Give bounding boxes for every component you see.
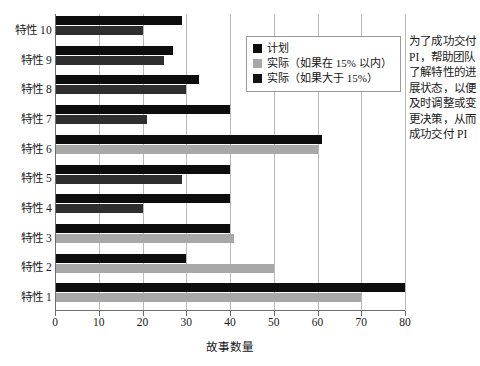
bar-actual xyxy=(55,26,143,35)
gridline xyxy=(405,14,406,311)
y-axis-line xyxy=(55,14,56,311)
bar-group xyxy=(55,103,405,133)
chart-legend: 计划实际（如果在 15% 以内）实际（如果大于 15%） xyxy=(246,36,401,92)
x-axis-tick-label: 50 xyxy=(254,316,294,328)
x-axis-tick-label: 10 xyxy=(79,316,119,328)
y-axis-category-label: 特性 5 xyxy=(21,169,52,185)
bar-planned xyxy=(55,194,230,203)
bar-planned xyxy=(55,75,199,84)
x-axis-tick-label: 40 xyxy=(210,316,250,328)
bar-actual xyxy=(55,234,234,243)
y-axis-category-label: 特性 3 xyxy=(21,229,52,245)
x-axis-tick-label: 0 xyxy=(35,316,75,328)
bar-chart-figure: 特性 1特性 2特性 3特性 4特性 5特性 6特性 7特性 8特性 9特性 1… xyxy=(0,0,480,366)
legend-label: 实际（如果在 15% 以内） xyxy=(267,56,392,71)
legend-swatch-icon xyxy=(253,44,262,53)
bar-group xyxy=(55,192,405,222)
bar-group xyxy=(55,222,405,252)
bar-group xyxy=(55,281,405,311)
legend-swatch-icon xyxy=(253,59,262,68)
y-axis-category-label: 特性 2 xyxy=(21,258,52,274)
bar-actual xyxy=(55,145,318,154)
side-note-text: 为了成功交付 PI，帮助团队了解特性的进展状态，以便及时调整或变更决策，从而成功… xyxy=(409,34,477,143)
x-axis-title: 故事数量 xyxy=(0,338,460,354)
legend-swatch-icon xyxy=(253,74,262,83)
x-axis-tick-label: 80 xyxy=(385,316,425,328)
bar-planned xyxy=(55,224,230,233)
y-axis-category-label: 特性 6 xyxy=(21,140,52,156)
bar-planned xyxy=(55,165,230,174)
bar-planned xyxy=(55,135,322,144)
legend-item: 实际（如果在 15% 以内） xyxy=(253,56,392,71)
bar-group xyxy=(55,252,405,282)
bar-actual xyxy=(55,264,274,273)
bar-planned xyxy=(55,16,182,25)
legend-label: 实际（如果大于 15%） xyxy=(267,71,378,86)
bar-group xyxy=(55,133,405,163)
bar-actual xyxy=(55,204,143,213)
bar-actual xyxy=(55,175,182,184)
y-axis-category-label: 特性 8 xyxy=(21,80,52,96)
y-axis-category-label: 特性 1 xyxy=(21,288,52,304)
bar-planned xyxy=(55,283,405,292)
bar-actual xyxy=(55,115,147,124)
bar-actual xyxy=(55,85,186,94)
legend-label: 计划 xyxy=(267,41,289,56)
bar-actual xyxy=(55,293,361,302)
bar-planned xyxy=(55,254,186,263)
x-axis-tick-label: 60 xyxy=(298,316,338,328)
x-axis-tick-label: 70 xyxy=(341,316,381,328)
x-axis-tick-label: 30 xyxy=(166,316,206,328)
legend-item: 实际（如果大于 15%） xyxy=(253,71,392,86)
x-axis-tick-label: 20 xyxy=(123,316,163,328)
y-axis-category-label: 特性 9 xyxy=(21,51,52,67)
bar-planned xyxy=(55,46,173,55)
bar-actual xyxy=(55,56,164,65)
y-axis-category-label: 特性 4 xyxy=(21,199,52,215)
legend-item: 计划 xyxy=(253,41,392,56)
y-axis-category-label: 特性 10 xyxy=(15,21,52,37)
y-axis-category-label: 特性 7 xyxy=(21,110,52,126)
bar-planned xyxy=(55,105,230,114)
bar-group xyxy=(55,163,405,193)
